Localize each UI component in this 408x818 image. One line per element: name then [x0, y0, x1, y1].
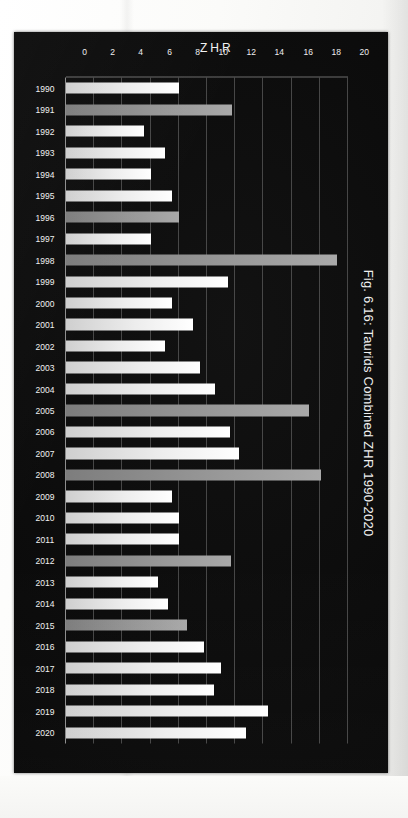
bar-2014[interactable] [66, 598, 168, 609]
category-label-2004: 2004 [31, 384, 59, 394]
category-label-2006: 2006 [31, 426, 59, 436]
bar-2009[interactable] [66, 490, 172, 501]
category-label-2000: 2000 [31, 298, 59, 308]
page-bottom-margin [0, 776, 408, 818]
category-label-1994: 1994 [31, 169, 59, 179]
value-axis-tick-0: 0 [67, 46, 87, 56]
bar-2015[interactable] [66, 619, 187, 630]
bar-1997[interactable] [66, 233, 151, 244]
category-label-2009: 2009 [31, 491, 59, 501]
bar-1996[interactable] [66, 211, 179, 222]
category-label-1991: 1991 [31, 104, 59, 114]
category-label-2005: 2005 [31, 405, 59, 415]
bar-2013[interactable] [66, 576, 158, 587]
category-label-2013: 2013 [31, 577, 59, 587]
bar-1999[interactable] [66, 276, 228, 287]
category-label-1990: 1990 [31, 83, 59, 93]
figure-plate: Fig. 6.16: Taurids Combined ZHR 1990-202… [14, 32, 388, 773]
bar-chart-figure: Fig. 6.16: Taurids Combined ZHR 1990-202… [14, 32, 388, 773]
bar-2011[interactable] [66, 533, 179, 544]
bar-2000[interactable] [66, 297, 172, 308]
category-label-2011: 2011 [31, 534, 59, 544]
bar-1990[interactable] [66, 82, 179, 93]
value-axis-tick-18: 18 [321, 46, 341, 56]
value-axis-tick-8: 8 [180, 46, 200, 56]
bar-2004[interactable] [66, 383, 215, 394]
category-label-1992: 1992 [31, 126, 59, 136]
category-label-2016: 2016 [31, 641, 59, 651]
bar-2008[interactable] [66, 469, 321, 480]
category-label-1999: 1999 [31, 276, 59, 286]
value-axis-title: ZHR [200, 40, 218, 54]
category-label-2014: 2014 [31, 598, 59, 608]
category-label-2003: 2003 [31, 362, 59, 372]
bar-2002[interactable] [66, 340, 165, 351]
bar-2007[interactable] [66, 447, 239, 458]
category-label-1997: 1997 [31, 233, 59, 243]
bar-2017[interactable] [66, 662, 221, 673]
value-axis-tick-14: 14 [264, 46, 284, 56]
category-label-1993: 1993 [31, 147, 59, 157]
bar-2001[interactable] [66, 318, 193, 329]
plot-area: 0246810121416182019901991199219931994199… [66, 76, 348, 743]
bar-1992[interactable] [66, 125, 144, 136]
bar-2006[interactable] [66, 426, 230, 437]
category-label-2018: 2018 [31, 684, 59, 694]
value-axis-tick-12: 12 [236, 46, 256, 56]
category-label-2010: 2010 [31, 512, 59, 522]
bar-2003[interactable] [66, 361, 200, 372]
bar-2018[interactable] [66, 684, 214, 695]
category-label-2001: 2001 [31, 319, 59, 329]
bar-1991[interactable] [66, 104, 232, 115]
category-label-1995: 1995 [31, 190, 59, 200]
bar-2012[interactable] [66, 555, 231, 566]
category-label-2017: 2017 [31, 663, 59, 673]
category-label-2020: 2020 [31, 727, 59, 737]
category-label-2012: 2012 [31, 555, 59, 565]
bar-2010[interactable] [66, 512, 179, 523]
value-axis-tick-2: 2 [95, 46, 115, 56]
bar-1993[interactable] [66, 147, 165, 158]
bar-1995[interactable] [66, 190, 172, 201]
gridline-18 [319, 77, 320, 743]
category-label-1998: 1998 [31, 255, 59, 265]
gridline-20 [347, 77, 348, 743]
category-label-2008: 2008 [31, 469, 59, 479]
value-axis-tick-4: 4 [123, 46, 143, 56]
value-axis-tick-20: 20 [349, 46, 369, 56]
bar-2020[interactable] [66, 727, 246, 738]
category-label-2007: 2007 [31, 448, 59, 458]
category-label-2002: 2002 [31, 341, 59, 351]
bar-1994[interactable] [66, 168, 151, 179]
bar-2005[interactable] [66, 404, 309, 415]
figure-title: Fig. 6.16: Taurids Combined ZHR 1990-202… [361, 32, 376, 773]
bar-2016[interactable] [66, 641, 204, 652]
bar-2019[interactable] [66, 705, 268, 716]
value-axis-tick-6: 6 [152, 46, 172, 56]
category-label-1996: 1996 [31, 212, 59, 222]
category-label-2015: 2015 [31, 620, 59, 630]
category-label-2019: 2019 [31, 706, 59, 716]
bar-1998[interactable] [66, 254, 337, 265]
value-axis-tick-16: 16 [293, 46, 313, 56]
